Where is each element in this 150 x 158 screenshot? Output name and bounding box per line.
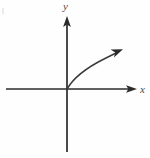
function-curve [67, 53, 116, 89]
curve-group [67, 49, 123, 89]
x-axis-label: x [140, 84, 145, 95]
coordinate-plane-figure: y x [0, 0, 150, 158]
x-axis-group [6, 85, 137, 93]
figure-canvas [0, 0, 150, 158]
curve-arrowhead-icon [111, 49, 123, 57]
scan-artifact-speck [2, 8, 4, 14]
y-axis-label: y [63, 1, 68, 12]
